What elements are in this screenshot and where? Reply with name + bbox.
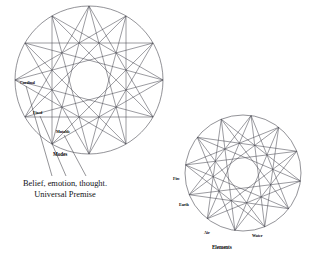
wheel-point-label-fire: Fire xyxy=(173,177,180,181)
elements-wheel-graphic xyxy=(185,115,301,231)
universal-premise-annotation: Belief, emotion, thought. Universal Prem… xyxy=(0,178,130,200)
wheel-point-label-cardinal: Cardinal xyxy=(20,81,35,85)
wheel-triangle-chord xyxy=(52,16,163,144)
wheel-triangle-chord xyxy=(25,6,153,117)
wheel-outer-circle xyxy=(15,6,163,154)
wheel-star-chord xyxy=(186,116,301,231)
wheel-outer-circle xyxy=(185,115,301,231)
modes-caption: Modes xyxy=(53,152,67,157)
wheel-point-label-fixed: Fixed xyxy=(33,111,42,115)
elements-caption: Elements xyxy=(212,245,232,250)
wheel-point-label-earth: Earth xyxy=(179,203,189,207)
wheels-svg xyxy=(0,0,322,262)
annotation-line-1: Belief, emotion, thought. xyxy=(0,178,130,189)
annotation-line-2: Universal Premise xyxy=(0,189,130,200)
modes-wheel-graphic xyxy=(15,6,163,154)
wheel-triangle-chord xyxy=(25,43,153,154)
wheel-point-label-water: Water xyxy=(252,234,262,238)
wheel-point-label-mutable: Mutable xyxy=(56,130,70,134)
wheel-star-chord xyxy=(15,6,163,154)
wheel-point-label-air: Air xyxy=(204,231,210,235)
diagram-canvas: Cardinal Fixed Mutable Modes Belief, emo… xyxy=(0,0,322,262)
